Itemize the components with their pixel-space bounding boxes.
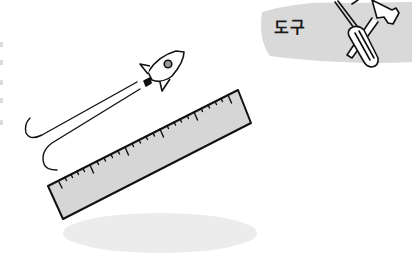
badge-label: 도구 (270, 14, 310, 38)
rocket-icon (140, 51, 184, 91)
ruler-shadow (63, 213, 257, 253)
ruler-icon (48, 90, 251, 219)
left-edge-marks (0, 42, 3, 125)
illustration-canvas: 도구 (0, 0, 412, 255)
